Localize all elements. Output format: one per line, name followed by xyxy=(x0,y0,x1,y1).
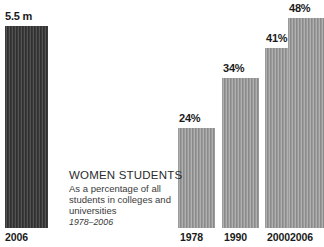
chart-title: WOMEN STUDENTS xyxy=(69,169,187,182)
bar-year-label-1978: 1978 xyxy=(180,232,203,243)
chart-subtitle-line-1: As a percentage of all xyxy=(69,183,187,194)
bar-1990 xyxy=(222,78,259,228)
bar-total-2006 xyxy=(5,26,48,228)
chart-subtitle-line-3: universities xyxy=(69,205,187,216)
bar-value-label-2006: 48% xyxy=(289,3,310,14)
bar-value-label-1978: 24% xyxy=(179,113,200,124)
bar-2006 xyxy=(288,18,324,228)
bar-value-label-1990: 34% xyxy=(223,63,244,74)
chart-period-range: 1978–2006 xyxy=(69,217,187,228)
total-bar-value-label: 5.5 m xyxy=(5,11,32,22)
chart-subtitle-line-2: students in colleges and xyxy=(69,194,187,205)
bar-year-label-2006: 2006 xyxy=(290,232,313,243)
total-bar-year-label: 2006 xyxy=(5,232,28,243)
bar-value-label-2000: 41% xyxy=(266,33,287,44)
bar-year-label-1990: 1990 xyxy=(224,232,247,243)
chart-caption: WOMEN STUDENTS As a percentage of all st… xyxy=(69,169,187,228)
women-students-bar-chart: 5.5 m 2006 24% 1978 34% 1990 41% 2000 48… xyxy=(0,0,324,247)
bar-year-label-2000: 2000 xyxy=(267,232,290,243)
